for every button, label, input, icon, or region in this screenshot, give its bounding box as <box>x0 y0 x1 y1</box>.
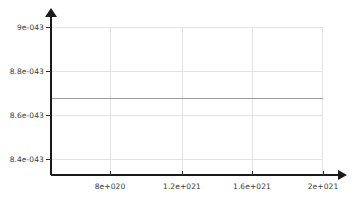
x-axis-tick-label: 1.6e+021 <box>226 182 278 191</box>
gridline-vertical <box>110 27 111 175</box>
gridline-vertical <box>322 27 323 175</box>
plot-area <box>51 27 323 175</box>
x-axis-tick-label: 2e+021 <box>297 182 349 191</box>
x-axis-tick <box>252 171 253 176</box>
y-axis-tick-label: 9e-043 <box>17 23 44 32</box>
gridline-vertical <box>252 27 253 175</box>
x-axis-tick <box>323 171 324 176</box>
y-axis-tick-label: 8.6e-043 <box>10 111 44 120</box>
gridline-horizontal <box>51 71 323 72</box>
chart-figure: 9e-043 8.8e-043 8.6e-043 8.4e-043 8e+020… <box>0 0 355 205</box>
gridline-horizontal <box>51 115 323 116</box>
y-axis-tick <box>46 159 51 160</box>
gridline-horizontal <box>51 27 323 28</box>
y-axis-tick <box>46 71 51 72</box>
x-axis-arrow-icon <box>338 170 347 180</box>
y-axis-tick-label: 8.8e-043 <box>10 67 44 76</box>
x-axis-tick <box>110 171 111 176</box>
x-axis-tick-label: 1.2e+021 <box>156 182 208 191</box>
gridline-horizontal <box>51 159 323 160</box>
data-series-line <box>51 98 323 99</box>
y-axis-tick-label: 8.4e-043 <box>10 155 44 164</box>
y-axis-arrow-icon <box>45 8 57 17</box>
gridline-vertical <box>182 27 183 175</box>
y-axis-line <box>50 14 52 175</box>
x-axis-tick <box>182 171 183 176</box>
y-axis-tick <box>46 115 51 116</box>
x-axis-tick-label: 8e+020 <box>84 182 136 191</box>
y-axis-tick <box>46 27 51 28</box>
x-axis-line <box>51 174 340 176</box>
